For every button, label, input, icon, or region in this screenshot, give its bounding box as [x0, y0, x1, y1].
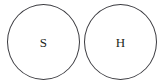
circle-node-s-label: S: [40, 36, 47, 49]
circle-node-h[interactable]: H: [84, 4, 157, 80]
circle-node-h-label: H: [116, 36, 126, 49]
diagram-canvas: S H: [0, 0, 165, 84]
circle-node-s[interactable]: S: [7, 4, 80, 80]
